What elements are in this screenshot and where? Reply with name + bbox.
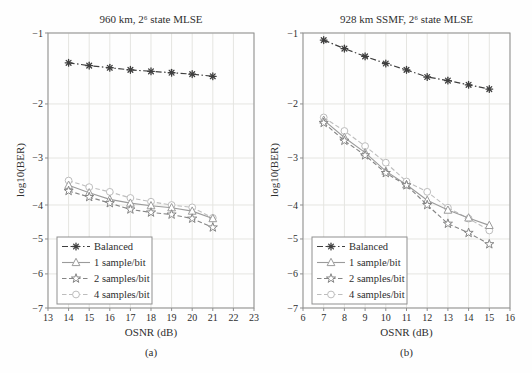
svg-text:−4: −4 bbox=[32, 200, 43, 211]
svg-text:−7: −7 bbox=[287, 303, 298, 314]
svg-text:−2: −2 bbox=[287, 98, 298, 109]
svg-text:−1: −1 bbox=[287, 28, 298, 39]
svg-text:−6: −6 bbox=[287, 268, 298, 279]
svg-text:−7: −7 bbox=[32, 303, 43, 314]
svg-text:19: 19 bbox=[167, 312, 177, 323]
legend-label: 2 samples/bit bbox=[94, 273, 150, 284]
plot-b: 678910111213141516−1−2−3−4−5−6−7Balanced… bbox=[287, 28, 515, 324]
svg-text:−3: −3 bbox=[32, 152, 43, 163]
plot-a-sublabel: (a) bbox=[48, 346, 254, 360]
svg-text:6: 6 bbox=[301, 312, 306, 323]
svg-text:16: 16 bbox=[505, 312, 515, 323]
legend-label: Balanced bbox=[94, 241, 134, 252]
svg-text:−5: −5 bbox=[32, 233, 43, 244]
svg-text:21: 21 bbox=[208, 312, 218, 323]
svg-text:16: 16 bbox=[105, 312, 115, 323]
plot-a-ylabel: log10(BER) bbox=[14, 115, 28, 225]
svg-text:15: 15 bbox=[84, 312, 94, 323]
svg-text:9: 9 bbox=[363, 312, 368, 323]
plots-canvas: 1314151617181920212223−1−2−3−4−5−6−7Bala… bbox=[0, 0, 532, 373]
svg-text:−1: −1 bbox=[32, 28, 43, 39]
plot-a: 1314151617181920212223−1−2−3−4−5−6−7Bala… bbox=[32, 28, 259, 324]
legend: Balanced1 sample/bit2 samples/bit4 sampl… bbox=[57, 237, 152, 304]
legend-label: 2 samples/bit bbox=[349, 273, 405, 284]
svg-text:13: 13 bbox=[43, 312, 53, 323]
legend-label: Balanced bbox=[349, 241, 389, 252]
svg-text:14: 14 bbox=[464, 312, 474, 323]
svg-text:17: 17 bbox=[125, 312, 135, 323]
legend-label: 4 samples/bit bbox=[349, 289, 405, 300]
svg-text:20: 20 bbox=[187, 312, 197, 323]
series-balanced bbox=[65, 59, 216, 79]
svg-text:12: 12 bbox=[422, 312, 432, 323]
svg-text:18: 18 bbox=[146, 312, 156, 323]
plot-a-xlabel: OSNR (dB) bbox=[48, 326, 254, 340]
svg-text:−5: −5 bbox=[287, 233, 298, 244]
dual-ber-osnr-figure: 960 km, 2⁶ state MLSE 928 km SSMF, 2⁶ st… bbox=[0, 0, 532, 373]
legend: Balanced1 sample/bit2 samples/bit4 sampl… bbox=[312, 237, 407, 304]
svg-text:−4: −4 bbox=[287, 200, 298, 211]
legend-label: 1 sample/bit bbox=[349, 257, 401, 268]
plot-b-xlabel: OSNR (dB) bbox=[303, 326, 510, 340]
svg-text:23: 23 bbox=[249, 312, 259, 323]
svg-text:8: 8 bbox=[342, 312, 347, 323]
plot-b-ylabel: log10(BER) bbox=[268, 115, 282, 225]
svg-text:15: 15 bbox=[484, 312, 494, 323]
svg-text:−6: −6 bbox=[32, 268, 43, 279]
legend-label: 4 samples/bit bbox=[94, 289, 150, 300]
svg-text:7: 7 bbox=[321, 312, 326, 323]
svg-text:14: 14 bbox=[64, 312, 74, 323]
svg-text:11: 11 bbox=[402, 312, 412, 323]
plot-b-sublabel: (b) bbox=[303, 346, 510, 360]
svg-text:−3: −3 bbox=[287, 152, 298, 163]
svg-text:−2: −2 bbox=[32, 98, 43, 109]
legend-label: 1 sample/bit bbox=[94, 257, 146, 268]
svg-text:10: 10 bbox=[381, 312, 391, 323]
svg-text:22: 22 bbox=[228, 312, 238, 323]
svg-text:13: 13 bbox=[443, 312, 453, 323]
